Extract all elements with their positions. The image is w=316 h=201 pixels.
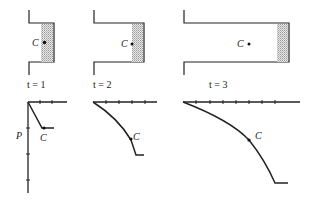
graph-2 (93, 100, 157, 155)
graph-2-label-c: C (133, 131, 140, 142)
center-point-t3 (248, 43, 251, 46)
graph-1 (26, 100, 67, 193)
axis-label-p: P (15, 130, 22, 141)
label-c-t1: C (32, 37, 39, 48)
label-c-t2: C (121, 38, 128, 49)
center-point-t1 (43, 41, 47, 45)
graph-3 (183, 100, 300, 183)
time-label-t3: t = 3 (209, 79, 227, 90)
shaded-region-t3 (277, 24, 288, 62)
graph-1-label-c: C (40, 132, 47, 143)
graph-3-point-c (247, 138, 250, 141)
diagram: C t = 1 C t = 2 C t = 3 P C (0, 0, 316, 201)
shaded-region-t2 (132, 24, 143, 62)
label-c-t3: C (237, 38, 244, 49)
graph-1-point-c (42, 126, 45, 129)
time-label-t1: t = 1 (27, 79, 45, 90)
time-label-t2: t = 2 (93, 79, 111, 90)
center-point-t2 (131, 43, 134, 46)
graph-3-label-c: C (255, 130, 262, 141)
